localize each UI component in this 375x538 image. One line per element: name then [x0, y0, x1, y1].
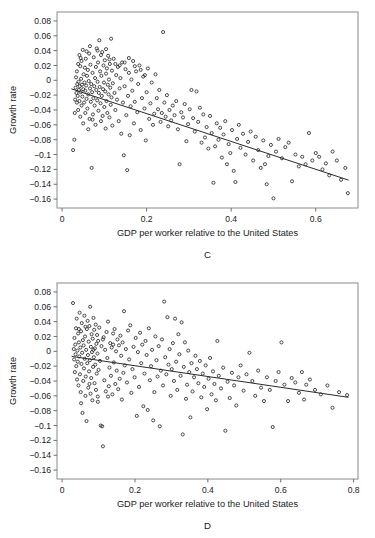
data-point [277, 137, 280, 140]
data-point [161, 384, 164, 387]
data-point [204, 364, 207, 367]
data-point [107, 78, 110, 81]
data-point [127, 56, 130, 59]
data-point [79, 65, 82, 68]
data-point [290, 376, 293, 379]
data-point [205, 126, 208, 129]
data-point [112, 332, 115, 335]
data-point [97, 109, 100, 112]
data-point [100, 74, 103, 77]
data-point [103, 59, 106, 62]
y-tick-label: 0 [46, 75, 51, 85]
data-point [344, 166, 347, 169]
data-point [173, 114, 176, 117]
data-point [195, 368, 198, 371]
data-point [90, 376, 93, 379]
data-point [92, 316, 95, 319]
data-point [151, 348, 154, 351]
data-point [324, 162, 327, 165]
data-point [129, 105, 132, 108]
y-tick-label: −0.1 [34, 150, 51, 160]
data-point [149, 102, 152, 105]
data-point [158, 425, 161, 428]
data-point [86, 353, 89, 356]
y-tick-label: 0.02 [34, 61, 51, 71]
data-point [192, 117, 195, 120]
plot-frame [57, 12, 358, 208]
data-point [237, 123, 240, 126]
data-point [314, 152, 317, 155]
data-point [280, 341, 283, 344]
data-point [74, 76, 77, 79]
data-point [93, 104, 96, 107]
data-point [236, 137, 239, 140]
data-point [123, 85, 126, 88]
data-point [186, 383, 189, 386]
data-point [91, 91, 94, 94]
data-point [111, 82, 114, 85]
data-point [76, 94, 79, 97]
figure-container: 0.080.060.040.020−0.02−0.04−0.06−0.08−0.… [0, 0, 375, 538]
data-point [171, 342, 174, 345]
data-point [225, 163, 228, 166]
data-point [81, 95, 84, 98]
data-point [130, 78, 133, 81]
data-point [100, 94, 103, 97]
data-point [98, 39, 101, 42]
y-tick-label: −0.06 [29, 120, 51, 130]
data-point [164, 356, 167, 359]
data-point [95, 88, 98, 91]
panel-c-plot: 0.080.060.040.020−0.02−0.04−0.06−0.08−0.… [0, 0, 375, 268]
data-point [114, 62, 117, 65]
data-point [78, 373, 81, 376]
data-point [125, 381, 128, 384]
data-point [291, 180, 294, 183]
data-point [142, 405, 145, 408]
data-point [77, 108, 80, 111]
data-point [100, 345, 103, 348]
y-tick-label: 0.04 [34, 317, 51, 327]
data-point [184, 397, 187, 400]
data-point [190, 362, 193, 365]
y-tick-label: 0.08 [34, 287, 51, 297]
data-point [175, 360, 178, 363]
data-point [94, 323, 97, 326]
data-point [85, 50, 88, 53]
data-point [81, 339, 84, 342]
data-point [107, 385, 110, 388]
data-point [254, 135, 257, 138]
data-point [80, 322, 83, 325]
data-point [109, 103, 112, 106]
data-point [104, 72, 107, 75]
x-tick-label: 0.4 [202, 485, 214, 495]
data-point [156, 108, 159, 111]
data-point [193, 130, 196, 133]
data-point [79, 115, 82, 118]
y-tick-label: −0.06 [29, 391, 51, 401]
x-tick-label: 0.6 [275, 485, 287, 495]
data-point [90, 333, 93, 336]
data-point [108, 58, 111, 61]
data-point [201, 372, 204, 375]
data-point [287, 141, 290, 144]
data-point [103, 105, 106, 108]
data-point [241, 132, 244, 135]
data-point [113, 327, 116, 330]
data-point [224, 120, 227, 123]
data-point [179, 374, 182, 377]
data-point [160, 338, 163, 341]
data-point [89, 63, 92, 66]
data-point [247, 140, 250, 143]
data-point [171, 104, 174, 107]
data-point [88, 87, 91, 90]
data-point [76, 360, 79, 363]
data-point [120, 132, 123, 135]
data-point [168, 348, 171, 351]
data-point [106, 395, 109, 398]
data-point [118, 377, 121, 380]
panel-letter: D [204, 520, 211, 531]
data-point [125, 114, 128, 117]
x-tick-label: 0.2 [141, 214, 153, 224]
data-point [94, 77, 97, 80]
data-point [82, 379, 85, 382]
